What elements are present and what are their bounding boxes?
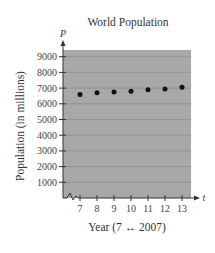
data-point [112,90,117,95]
y-tick-label: 8000 [37,67,57,78]
y-tick-label: 3000 [37,145,57,156]
x-tick-label: 12 [160,203,170,214]
x-tick-label: 7 [78,203,83,214]
data-point [78,92,83,97]
data-point [129,89,134,94]
data-point [95,90,100,95]
y-tick-label: 6000 [37,98,57,109]
data-point [146,87,151,92]
y-tick-label: 2000 [37,161,57,172]
y-axis-arrow-icon [61,40,66,46]
y-tick-label: 9000 [37,51,57,62]
y-tick-label: 1000 [37,177,57,188]
y-tick-label: 4000 [37,130,57,141]
x-tick-label: 10 [126,203,136,214]
data-point [163,86,168,91]
x-tick-label: 9 [112,203,117,214]
x-tick-label: 11 [143,203,153,214]
x-tick-label: 13 [177,203,187,214]
x-axis-title: Year (7 ↔ 2007) [88,221,166,234]
y-tick-label: 7000 [37,83,57,94]
scatter-chart: 100020003000400050006000700080009000Pt78… [0,0,215,253]
y-axis-title: Population (in millions) [14,71,27,181]
y-axis-variable: P [59,28,66,39]
data-point [180,85,185,90]
y-tick-label: 5000 [37,114,57,125]
x-axis-arrow-icon [194,196,200,201]
x-tick-label: 8 [95,203,100,214]
x-axis-variable: t [203,192,206,203]
